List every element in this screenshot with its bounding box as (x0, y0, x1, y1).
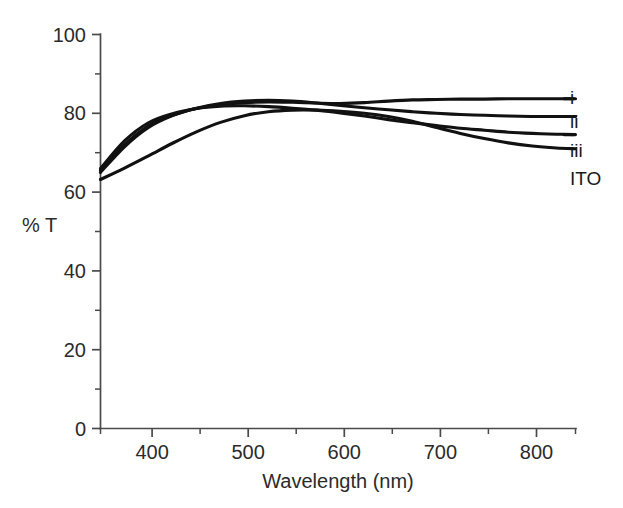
transmittance-spectrum-figure: 100 80 60 40 20 0 % T 400 500 60 (0, 0, 623, 508)
y-tick-label-100: 100 (53, 24, 86, 46)
series-label-ito: ITO (570, 168, 601, 189)
y-tick-label-20: 20 (64, 339, 86, 361)
y-tick-label-40: 40 (64, 260, 86, 282)
x-tick-label-600: 600 (328, 441, 361, 463)
x-tick-label-700: 700 (424, 441, 457, 463)
series-label-iii: iii (570, 140, 583, 161)
y-tick-label-0: 0 (75, 418, 86, 440)
x-tick-label-800: 800 (520, 441, 553, 463)
series-label-ii: ii (570, 111, 578, 132)
chart-svg: 100 80 60 40 20 0 % T 400 500 60 (0, 0, 623, 508)
y-tick-label-60: 60 (64, 181, 86, 203)
y-tick-label-80: 80 (64, 102, 86, 124)
y-axis-title: % T (22, 214, 57, 236)
series-label-i: i (570, 87, 574, 108)
x-tick-label-400: 400 (135, 441, 168, 463)
chart-background (0, 0, 623, 508)
x-tick-label-500: 500 (232, 441, 265, 463)
x-axis-title: Wavelength (nm) (262, 470, 414, 492)
